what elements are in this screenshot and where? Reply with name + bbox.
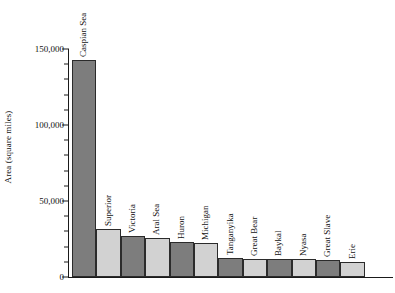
bar-category-label: Michigan: [200, 206, 210, 241]
bar-category-label: Great Bear: [248, 217, 258, 256]
y-tick-label: 100,000: [35, 120, 64, 130]
bar: [145, 238, 169, 277]
bar-group: Great Bear: [243, 30, 267, 277]
bar-category-label: Caspian Sea: [78, 12, 88, 56]
bar-category-label: Superior: [102, 195, 112, 226]
bar-chart: Area (square miles) 050,000100,000150,00…: [0, 0, 395, 293]
y-axis-title-text: Area (square miles): [3, 110, 13, 183]
bar: [194, 243, 218, 277]
bar-group: Great Slave: [316, 30, 340, 277]
bar: [96, 229, 120, 277]
bar-category-label: Tanganyika: [224, 213, 234, 255]
bar-group: Erie: [340, 30, 364, 277]
bar: [72, 60, 96, 277]
bar-group: Victoria: [121, 30, 145, 277]
bar-group: Michigan: [194, 30, 218, 277]
bar: [121, 236, 145, 277]
x-axis-line: [68, 277, 393, 278]
bar-group: Tanganyika: [218, 30, 242, 277]
bar: [218, 258, 242, 277]
plot-area: Caspian SeaSuperiorVictoriaAral SeaHuron…: [69, 30, 393, 277]
bar: [340, 262, 364, 277]
y-tick-label: 50,000: [39, 196, 64, 206]
bar-category-label: Aral Sea: [151, 204, 161, 235]
bar: [292, 259, 316, 277]
bar-group: Caspian Sea: [72, 30, 96, 277]
bar-category-label: Victoria: [126, 204, 136, 233]
bar-group: Nyasa: [292, 30, 316, 277]
bar-category-label: Nyasa: [297, 234, 307, 257]
bar: [243, 259, 267, 277]
bar-group: Aral Sea: [145, 30, 169, 277]
bar-group: Huron: [170, 30, 194, 277]
bar-group: Baykal: [267, 30, 291, 277]
y-axis-tick-labels: 050,000100,000150,000: [14, 0, 64, 293]
y-tick-label: 150,000: [35, 44, 64, 54]
bar-category-label: Huron: [175, 216, 185, 239]
bar-category-label: Erie: [346, 244, 356, 259]
bar-category-label: Great Slave: [322, 215, 332, 257]
bar-category-label: Baykal: [273, 231, 283, 257]
bar-group: Superior: [96, 30, 120, 277]
bar: [170, 242, 194, 277]
bar: [267, 259, 291, 277]
bar: [316, 260, 340, 277]
